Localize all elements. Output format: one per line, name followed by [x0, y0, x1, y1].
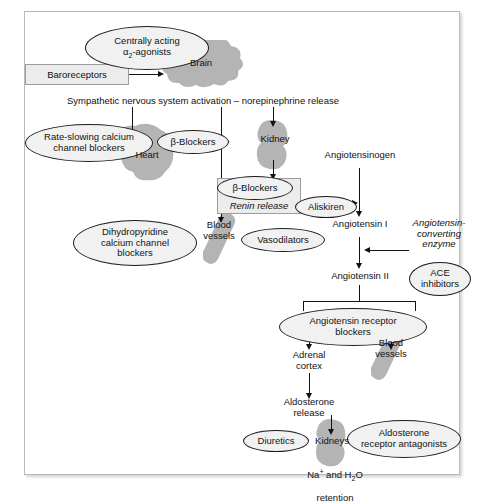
angiotensin-ii-label: Angiotensin II: [315, 271, 405, 282]
arrowhead-angiotensinogen-ai: [356, 211, 362, 217]
ace-enzyme-label: Angiotensin- converting enzyme: [405, 218, 473, 250]
arrowhead-arb-adrenal: [306, 344, 312, 350]
baroreceptors-label: Baroreceptors: [47, 69, 107, 80]
vasodilators-oval[interactable]: Vasodilators: [241, 228, 325, 252]
connector-adrenal-aldosterone: [309, 373, 310, 395]
blockers-text-renin: -Blockers: [238, 182, 278, 193]
aldosterone-release-label: Aldosterone release: [275, 397, 343, 418]
blockers-text-heart: -Blockers: [176, 136, 216, 147]
and-h-text: and H: [323, 469, 351, 480]
bracket-aii-left: [303, 301, 304, 311]
brain-label: Brain: [173, 58, 229, 69]
heart-label: Heart: [119, 150, 175, 161]
connector-aii-bracket: [359, 285, 360, 302]
bracket-aii-top: [303, 301, 415, 302]
arb-label: Angiotensin receptor blockers: [309, 316, 396, 338]
beta-blockers-renin-label: β-Blockers: [232, 183, 277, 194]
aliskiren-label: Aliskiren: [308, 202, 344, 213]
connector-ace-enzyme: [369, 250, 409, 251]
connector-ai-aii: [359, 237, 360, 265]
arrowhead-ai-aii: [356, 263, 362, 269]
ace-inhibitors-label: ACE inhibitors: [421, 268, 459, 290]
diagram-frame: Sympathetic nervous system activation – …: [24, 11, 460, 475]
retention-text: retention: [317, 492, 354, 503]
angiotensin-i-label: Angiotensin I: [317, 219, 403, 230]
ace-inhibitors-oval[interactable]: ACE inhibitors: [409, 262, 471, 296]
dihydropyridine-ccb-label: Dihydropyridine calcium channel blockers: [101, 227, 169, 259]
kidney-label: Kidney: [247, 134, 303, 145]
beta-blockers-renin-oval[interactable]: β-Blockers: [217, 176, 293, 200]
dihydropyridine-ccb-oval[interactable]: Dihydropyridine calcium channel blockers: [73, 220, 197, 266]
kidneys-label: Kidneys: [305, 436, 359, 447]
arrowhead-ace-enzyme: [364, 247, 370, 253]
renin-release-label: Renin release: [230, 200, 289, 211]
blood-vessels-upper-label: Blood vessels: [191, 220, 247, 241]
diuretics-oval[interactable]: Diuretics: [243, 430, 309, 452]
sympathetic-activation-label: Sympathetic nervous system activation – …: [33, 96, 373, 107]
vasodilators-label: Vasodilators: [257, 235, 309, 246]
h2o-rest: O: [355, 469, 362, 480]
beta-blockers-heart-label: β-Blockers: [170, 137, 215, 148]
na-symbol: Na: [307, 469, 319, 480]
arrowhead-baroreceptors-brain: [158, 71, 164, 77]
adrenal-cortex-label: Adrenal cortex: [279, 350, 339, 371]
aldosterone-receptor-antagonists-oval[interactable]: Aldosterone receptor antagonists: [347, 420, 461, 458]
aliskiren-oval[interactable]: Aliskiren: [295, 196, 357, 218]
connector-angiotensinogen-ai: [359, 168, 360, 213]
agonists-text: -agonists: [132, 46, 171, 57]
arrowhead-adrenal-aldosterone: [306, 393, 312, 399]
blood-vessels-lower-label: Blood vessels: [363, 338, 419, 359]
bracket-aii-right: [415, 301, 416, 311]
aldosterone-antagonists-label: Aldosterone receptor antagonists: [361, 428, 447, 450]
angiotensinogen-label: Angiotensinogen: [311, 150, 409, 161]
diuretics-label: Diuretics: [258, 436, 295, 447]
connector-baroreceptors-brain: [128, 74, 159, 75]
alpha2-agonists-line2: α2-agonists: [123, 47, 171, 60]
baroreceptors-box[interactable]: Baroreceptors: [25, 64, 129, 85]
arrowhead-sns-kidney: [270, 121, 276, 127]
